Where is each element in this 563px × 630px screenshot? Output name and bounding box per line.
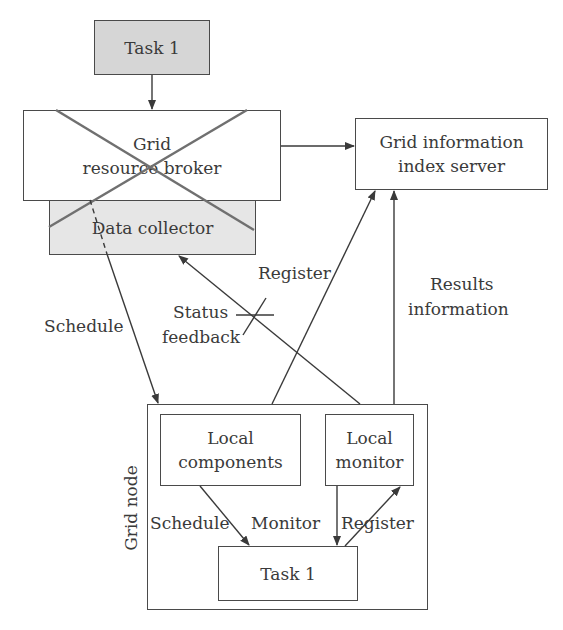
label-results-line2: information [408, 297, 509, 321]
crossed-out-icon [49, 110, 254, 230]
schedule-dashed-segment [90, 200, 107, 254]
grid-node-label: Grid node [119, 463, 143, 553]
label-register-outer: Register [258, 261, 331, 285]
label-status-line2: feedback [162, 325, 240, 349]
label-results-line1: Results [430, 272, 494, 296]
label-register-inner: Register [341, 511, 414, 535]
label-schedule-inner: Schedule [150, 511, 230, 535]
arrow-register-outer [272, 191, 375, 404]
label-status-line1: Status [173, 300, 228, 324]
label-schedule-outer: Schedule [44, 314, 124, 338]
label-monitor-inner: Monitor [251, 511, 320, 535]
status-blocked-mark-d [243, 298, 266, 335]
